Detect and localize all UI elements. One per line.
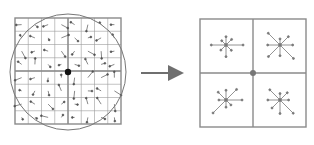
descriptor-keypoint-dot (250, 70, 256, 76)
transform-arrow-icon (141, 65, 184, 81)
descriptor-panel (200, 19, 306, 127)
gradient-grid-panel (10, 14, 126, 130)
keypoint-dot (65, 69, 71, 75)
sift-descriptor-diagram (0, 0, 314, 145)
